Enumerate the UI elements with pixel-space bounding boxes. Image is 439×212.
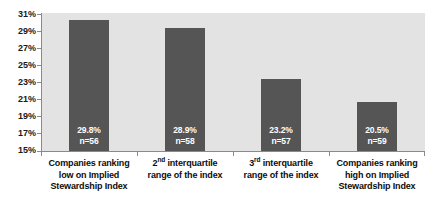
bar-chart: 31% 29% 27% 25% 23% 21% 19% 17% 15% 29.8… xyxy=(0,0,439,212)
y-tick-mark xyxy=(37,82,41,83)
y-tick-mark xyxy=(37,133,41,134)
y-tick-mark xyxy=(37,14,41,15)
category-1-line3: Stewardship Index xyxy=(51,181,128,191)
category-4-line2: high on Implied xyxy=(345,170,409,180)
bar-4-n: n=59 xyxy=(357,136,397,147)
x-tick-mark xyxy=(424,152,425,156)
category-label-2: 2nd interquartile range of the index xyxy=(137,158,233,181)
y-tick-label-31: 31% xyxy=(4,9,36,19)
bar-2-value: 28.9% xyxy=(165,125,205,136)
y-tick-label-15: 15% xyxy=(4,145,36,155)
category-4-line1: Companies ranking xyxy=(337,158,418,168)
y-tick-label-23: 23% xyxy=(4,77,36,87)
y-tick-mark xyxy=(37,99,41,100)
bar-1-labels: 29.8% n=56 xyxy=(69,125,109,147)
y-tick-mark xyxy=(37,116,41,117)
bar-1-value: 29.8% xyxy=(69,125,109,136)
bar-4-value: 20.5% xyxy=(357,125,397,136)
category-3-line1: interquartile xyxy=(263,158,313,168)
bar-3-n: n=57 xyxy=(261,136,301,147)
x-tick-mark xyxy=(329,152,330,156)
category-label-3: 3rd interquartile range of the index xyxy=(233,158,329,181)
y-tick-label-29: 29% xyxy=(4,26,36,36)
x-tick-mark xyxy=(137,152,138,156)
bar-2-labels: 28.9% n=58 xyxy=(165,125,205,147)
y-tick-label-25: 25% xyxy=(4,60,36,70)
bar-3-value: 23.2% xyxy=(261,125,301,136)
bar-2: 28.9% n=58 xyxy=(165,28,205,151)
category-1-line1: Companies ranking xyxy=(49,158,130,168)
bar-2-n: n=58 xyxy=(165,136,205,147)
x-tick-mark xyxy=(233,152,234,156)
y-axis-labels: 31% 29% 27% 25% 23% 21% 19% 17% 15% xyxy=(0,0,36,212)
y-tick-label-17: 17% xyxy=(4,128,36,138)
bar-4: 20.5% n=59 xyxy=(357,102,397,151)
bar-3: 23.2% n=57 xyxy=(261,79,301,151)
category-3-line2: range of the index xyxy=(244,170,319,180)
y-axis-line xyxy=(41,13,42,152)
y-tick-mark xyxy=(37,48,41,49)
bar-3-labels: 23.2% n=57 xyxy=(261,125,301,147)
y-tick-mark xyxy=(37,65,41,66)
x-tick-mark xyxy=(41,152,42,156)
category-2-ordinal-suffix: nd xyxy=(157,156,165,163)
y-tick-label-21: 21% xyxy=(4,94,36,104)
category-label-4: Companies ranking high on Implied Stewar… xyxy=(329,158,425,193)
bar-1-n: n=56 xyxy=(69,136,109,147)
y-tick-label-19: 19% xyxy=(4,111,36,121)
category-4-line3: Stewardship Index xyxy=(339,181,416,191)
bar-4-labels: 20.5% n=59 xyxy=(357,125,397,147)
category-1-line2: low on Implied xyxy=(59,170,119,180)
category-3-ordinal-suffix: rd xyxy=(254,156,260,163)
category-2-line2: range of the index xyxy=(148,170,223,180)
y-tick-mark xyxy=(37,31,41,32)
y-tick-label-27: 27% xyxy=(4,43,36,53)
bar-1: 29.8% n=56 xyxy=(69,20,109,151)
category-2-line1: interquartile xyxy=(167,158,217,168)
category-label-1: Companies ranking low on Implied Steward… xyxy=(41,158,137,193)
